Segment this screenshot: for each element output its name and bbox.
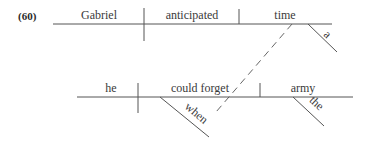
sentence-diagram: (60) Gabriel anticipated time a he could… (0, 0, 368, 142)
main-object: time (274, 8, 295, 22)
sub-object-modifier: the (307, 93, 327, 113)
sub-verb: could forget (171, 81, 230, 95)
main-verb: anticipated (166, 8, 219, 22)
sub-subject: he (105, 81, 116, 95)
main-object-modifier: a (321, 27, 335, 41)
sub-verb-modifier: when (182, 99, 211, 126)
main-subject: Gabriel (81, 8, 118, 22)
sub-object: army (291, 81, 316, 95)
example-number: (60) (18, 10, 37, 23)
relative-connector-dashed (216, 24, 292, 112)
